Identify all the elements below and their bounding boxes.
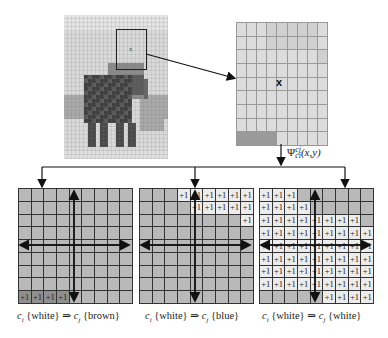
connector-arrows — [0, 0, 388, 338]
